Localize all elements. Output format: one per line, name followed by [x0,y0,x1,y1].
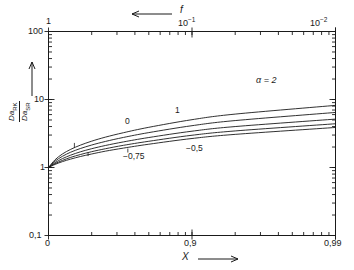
x-axis-arrow-icon [198,256,238,262]
top-tick-10e-2-exponent: −2 [320,16,327,23]
curve-label-minus-0-75: −0,75 [123,152,145,161]
chart-canvas [0,0,354,270]
curve-label-minus-0-5: −0,5 [186,144,203,153]
top-tick-10e-2-mantissa: 10 [310,18,320,28]
top-axis-label: f [180,5,183,15]
curve-label-alpha-2: α = 2 [256,76,276,85]
left-axis-ticks [45,32,55,236]
y-tick-label-10: 10 [34,95,44,104]
data-curves [49,105,336,167]
curve-1 [49,112,336,167]
figure-root: f 1 10−1 10−2 100 10 1 0,1 DaRK DaSR 0 0… [0,0,354,270]
y-axis-label-numerator: DaRK [8,101,20,122]
x-axis-label: X [182,252,189,262]
x-tick-label-0: 0 [45,239,50,248]
curve-label-0: 0 [125,117,130,126]
y-tick-label-1: 1 [40,163,45,172]
top-tick-label-10e-1: 10−1 [178,17,195,28]
top-axis-arrow-icon [132,11,172,17]
y-axis-numerator-subscript: RK [12,102,18,110]
top-tick-label-10e-2: 10−2 [310,17,327,28]
top-tick-label-1: 1 [46,17,51,26]
top-tick-10e-1-exponent: −1 [188,16,195,23]
top-tick-10e-1-mantissa: 10 [178,18,188,28]
y-axis-label: DaRK DaSR [8,101,31,122]
plot-frame [49,32,336,236]
top-axis-ticks [49,28,336,38]
y-axis-arrow-icon [29,62,35,96]
curve-label-1: 1 [175,106,180,115]
x-tick-label-0-9: 0,9 [184,239,197,248]
y-axis-denominator-base: Da [20,111,29,121]
y-tick-label-100: 100 [28,27,43,36]
y-axis-denominator-subscript: SR [24,102,30,110]
curve--2 [49,105,336,167]
y-axis-numerator-base: Da [7,111,16,121]
y-tick-label-0-1: 0,1 [29,231,42,240]
y-axis-label-denominator: DaSR [20,101,31,122]
x-tick-label-0-99: 0,99 [324,239,342,248]
right-axis-ticks [330,32,336,236]
